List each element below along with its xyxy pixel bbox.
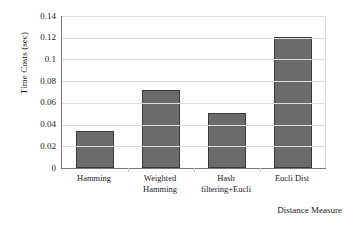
x-axis-category-label-line1: Hamming: [77, 173, 111, 183]
y-axis-tick-label: 0.1: [45, 55, 56, 64]
gridline: [62, 125, 326, 126]
bar: [208, 113, 246, 168]
x-axis-category-label-line2: Hamming: [127, 184, 193, 195]
bar: [76, 131, 114, 168]
y-axis-tick-label: 0.12: [40, 33, 56, 42]
gridline: [62, 81, 326, 82]
y-axis-tick-label: 0: [52, 164, 57, 173]
x-axis-category-label: Hamming: [61, 173, 127, 184]
gridline: [62, 59, 326, 60]
y-axis-tick-label: 0.06: [40, 98, 56, 107]
gridline: [62, 146, 326, 147]
x-axis-category-labels: HammingWeightedHammingHashfiltering+Eucl…: [61, 173, 325, 207]
y-axis-tick-label: 0.04: [40, 120, 56, 129]
x-axis-category-label-line2: filtering+Eucli: [193, 184, 259, 195]
x-axis-tick: [260, 168, 261, 172]
x-axis-category-label-line1: Hash: [217, 173, 234, 183]
y-axis-tick-label: 0.02: [40, 142, 56, 151]
x-axis-category-label-line1: Eucli Dist: [275, 173, 309, 183]
x-axis-title: Distance Measure: [277, 205, 342, 215]
x-axis-category-label: Eucli Dist: [259, 173, 325, 184]
gridline: [62, 103, 326, 104]
x-axis-category-label-line1: Weighted: [144, 173, 176, 183]
x-axis-tick: [194, 168, 195, 172]
gridline: [62, 16, 326, 17]
y-axis-tick-label: 0.08: [40, 77, 56, 86]
bars-layer: [62, 16, 326, 168]
bar-chart: Time Costs (sec) 00.020.040.060.080.10.1…: [0, 0, 348, 230]
gridline: [62, 38, 326, 39]
y-axis-tick-labels: 00.020.040.060.080.10.120.14: [20, 10, 58, 170]
x-axis-tick: [128, 168, 129, 172]
y-axis-tick-label: 0.14: [40, 12, 56, 21]
x-axis-category-label: WeightedHamming: [127, 173, 193, 195]
x-axis-category-label: Hashfiltering+Eucli: [193, 173, 259, 195]
bar: [142, 90, 180, 168]
plot-area: [61, 16, 326, 169]
